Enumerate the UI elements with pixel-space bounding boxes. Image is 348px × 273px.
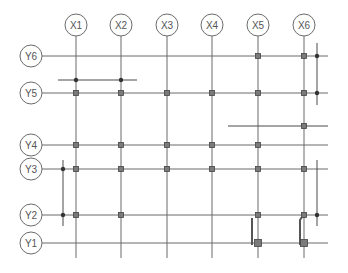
column-marker bbox=[256, 167, 261, 172]
y-axis-bubbles: Y6Y5Y4Y3Y2Y1 bbox=[20, 45, 42, 254]
axis-label: X6 bbox=[298, 20, 311, 31]
column-marker bbox=[165, 91, 170, 96]
secondary-node bbox=[119, 78, 123, 82]
column-marker bbox=[256, 54, 261, 59]
secondary-node bbox=[74, 78, 78, 82]
secondary-node bbox=[61, 213, 65, 217]
column-marker bbox=[210, 143, 215, 148]
column-marker bbox=[74, 167, 79, 172]
column-marker bbox=[256, 213, 261, 218]
column-marker bbox=[256, 143, 261, 148]
axis-label: X2 bbox=[115, 20, 128, 31]
axis-label: Y2 bbox=[25, 210, 38, 221]
column-marker bbox=[119, 91, 124, 96]
axis-label: X4 bbox=[206, 20, 219, 31]
secondary-node bbox=[315, 91, 319, 95]
column-marker bbox=[210, 91, 215, 96]
column-marker bbox=[74, 91, 79, 96]
column-marker bbox=[255, 240, 262, 247]
x-axis-bubbles: X1X2X3X4X5X6 bbox=[65, 14, 315, 36]
column-marker bbox=[302, 167, 307, 172]
column-marker bbox=[256, 91, 261, 96]
column-marker bbox=[74, 143, 79, 148]
column-marker bbox=[301, 240, 308, 247]
column-marker bbox=[74, 213, 79, 218]
y-axis-lines bbox=[42, 56, 328, 243]
column-marker bbox=[119, 143, 124, 148]
axis-label: Y3 bbox=[25, 164, 38, 175]
column-marker bbox=[302, 54, 307, 59]
axis-label: Y5 bbox=[25, 88, 38, 99]
axis-label: Y1 bbox=[25, 238, 38, 249]
axis-label: Y6 bbox=[25, 51, 38, 62]
column-marker bbox=[210, 167, 215, 172]
column-marker bbox=[165, 167, 170, 172]
secondary-node bbox=[61, 167, 65, 171]
column-marker bbox=[119, 213, 124, 218]
secondary-node bbox=[315, 213, 319, 217]
secondary-node bbox=[315, 54, 319, 58]
column-marker bbox=[165, 143, 170, 148]
column-markers bbox=[74, 54, 308, 247]
column-marker bbox=[302, 213, 307, 218]
axis-label: X5 bbox=[252, 20, 265, 31]
column-marker bbox=[119, 167, 124, 172]
axis-label: X3 bbox=[161, 20, 174, 31]
column-marker bbox=[302, 124, 307, 129]
column-marker bbox=[302, 91, 307, 96]
grid-diagram: X1X2X3X4X5X6 Y6Y5Y4Y3Y2Y1 bbox=[0, 0, 348, 273]
axis-label: Y4 bbox=[25, 140, 38, 151]
axis-label: X1 bbox=[70, 20, 83, 31]
x-axis-lines bbox=[76, 36, 304, 258]
